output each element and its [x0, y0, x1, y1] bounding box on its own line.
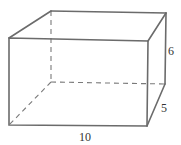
edge-back-top	[51, 11, 166, 13]
height-label: 6	[168, 44, 174, 58]
hidden-edge-bottom-left-depth	[9, 82, 51, 125]
length-label: 10	[79, 130, 91, 144]
edge-top-right-depth	[148, 13, 166, 41]
depth-label: 5	[161, 101, 167, 115]
edge-back-right-vertical	[165, 13, 166, 84]
box-diagram: 6 5 10	[0, 0, 181, 145]
edge-top-left-depth	[9, 11, 51, 38]
